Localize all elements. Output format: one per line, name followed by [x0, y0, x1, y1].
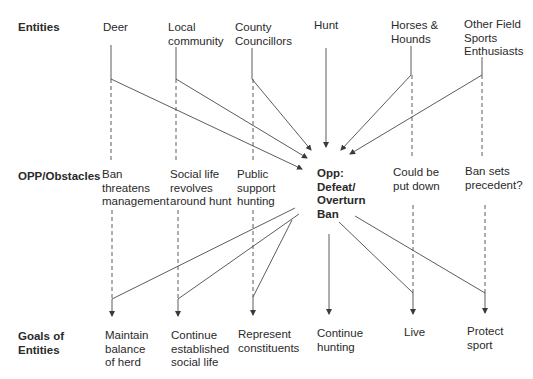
other-to-opp-arrow: [350, 75, 482, 154]
county-to-opp-arrow: [252, 79, 311, 150]
connector-lines: [0, 0, 533, 379]
opp-to-county-goal-line: [253, 220, 292, 297]
opp-to-local-goal-line: [178, 214, 299, 299]
opp-to-live-goal-line: [339, 222, 413, 293]
opp-to-protect-goal-line: [355, 216, 485, 293]
opp-to-deer-goal-line: [112, 208, 295, 299]
deer-to-opp-arrow: [111, 79, 302, 169]
